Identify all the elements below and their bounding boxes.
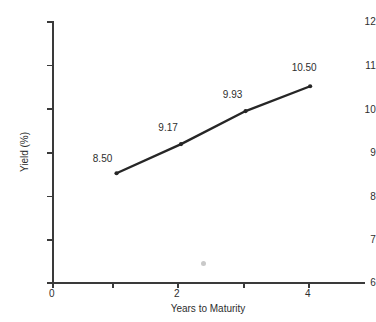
x-tick-label-0: 0 bbox=[49, 288, 55, 299]
y-tick-label-7: 7 bbox=[356, 234, 376, 245]
point-label-3: 9.93 bbox=[223, 89, 242, 100]
data-point-1 bbox=[114, 171, 118, 175]
point-label-2: 9.17 bbox=[158, 122, 177, 133]
y-tick-label-8: 8 bbox=[356, 191, 376, 202]
yield-curve-chart: 12 11 10 9 8 7 6 0 2 4 Yield (%) Years t… bbox=[0, 0, 376, 322]
y-tick-10 bbox=[47, 108, 52, 110]
y-tick-7 bbox=[47, 239, 52, 241]
y-tick-label-12: 12 bbox=[356, 16, 376, 27]
data-point-4 bbox=[308, 84, 312, 88]
y-axis-line bbox=[52, 21, 54, 283]
y-tick-11 bbox=[47, 65, 52, 67]
y-axis-title: Yield (%) bbox=[19, 132, 30, 172]
yield-series-line bbox=[117, 86, 311, 173]
y-tick-label-9: 9 bbox=[356, 147, 376, 158]
point-label-1: 8.50 bbox=[93, 153, 112, 164]
x-tick-1 bbox=[112, 283, 114, 288]
x-tick-label-4: 4 bbox=[305, 288, 311, 299]
data-point-2 bbox=[179, 142, 183, 146]
y-tick-8 bbox=[47, 196, 52, 198]
point-label-4: 10.50 bbox=[292, 62, 317, 73]
y-tick-label-10: 10 bbox=[356, 104, 376, 115]
x-tick-3 bbox=[243, 283, 245, 288]
x-axis-title: Years to Maturity bbox=[171, 303, 246, 314]
x-axis-line bbox=[52, 282, 365, 284]
yield-series-markers bbox=[114, 84, 312, 175]
y-tick-9 bbox=[47, 152, 52, 154]
data-point-3 bbox=[244, 109, 248, 113]
scan-artifact-speck bbox=[201, 261, 206, 266]
y-tick-12 bbox=[47, 21, 52, 23]
series-line-group bbox=[0, 0, 376, 322]
x-tick-label-2: 2 bbox=[174, 288, 180, 299]
y-tick-label-6: 6 bbox=[356, 277, 376, 288]
y-tick-label-11: 11 bbox=[356, 60, 376, 71]
